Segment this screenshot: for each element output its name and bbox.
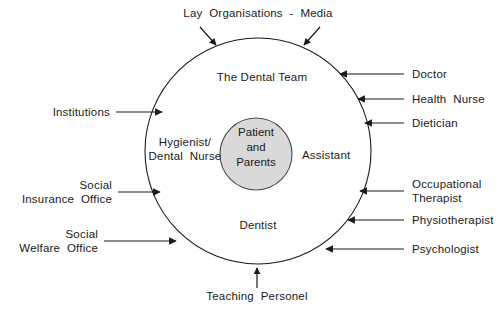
arrow-top-left [200, 27, 216, 45]
label-lay-organisations-media: Lay Organisations - Media [183, 7, 332, 21]
label-social-welfare-office: SocialWelfare Office [19, 228, 98, 255]
patient-line3: Parents [236, 156, 276, 168]
label-occupational-therapist: OccupationalTherapist [412, 178, 482, 205]
label-hygienist-dental-nurse: Hygienist/Dental Nurse [149, 136, 222, 163]
label-health-nurse: Health Nurse [412, 93, 485, 107]
label-patient-and-parents: PatientandParents [236, 125, 276, 170]
label-dentist: Dentist [239, 219, 276, 233]
label-teaching-personel: Teaching Personel [206, 290, 307, 304]
social-welfare-line1: Social [65, 228, 98, 240]
social-welfare-line2: Welfare Office [19, 242, 98, 254]
social-insurance-line2: Insurance Office [22, 193, 112, 205]
hygienist-line1: Hygienist/ [159, 136, 212, 148]
label-physiotherapist: Physiotherapist [412, 214, 494, 228]
label-dietician: Dietician [412, 117, 458, 131]
hygienist-line2: Dental Nurse [149, 150, 222, 162]
arrow-top-right [304, 27, 320, 45]
social-insurance-line1: Social [79, 179, 112, 191]
patient-line2: and [246, 141, 265, 153]
label-doctor: Doctor [412, 68, 447, 82]
diagram-canvas: Lay Organisations - Media The Dental Tea… [0, 0, 500, 318]
label-assistant: Assistant [302, 149, 350, 163]
label-the-dental-team: The Dental Team [217, 71, 307, 85]
label-institutions: Institutions [53, 106, 110, 120]
occupational-therapist-line2: Therapist [412, 192, 462, 204]
label-psychologist: Psychologist [412, 243, 479, 257]
patient-line1: Patient [238, 126, 274, 138]
label-social-insurance-office: SocialInsurance Office [22, 179, 112, 206]
occupational-therapist-line1: Occupational [412, 178, 482, 190]
